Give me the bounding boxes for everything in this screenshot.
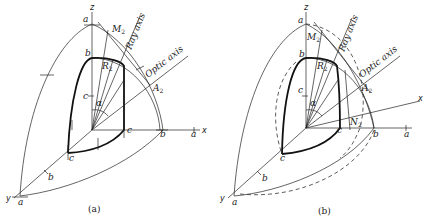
intercept-a-y-a: a	[18, 197, 23, 207]
ray-axis-label-a: Ray axis	[123, 11, 147, 51]
intercept-a-z-b: a	[298, 15, 303, 25]
dashed-circle-xy-b	[240, 130, 374, 195]
alpha-label-b: α	[310, 98, 316, 108]
radial-line-a	[92, 30, 108, 130]
y-axis-a	[14, 130, 92, 198]
outer-sheet-zy-b	[234, 24, 306, 196]
x-axis-label-b: x	[417, 94, 423, 103]
intercept-b-z-b: b	[299, 49, 305, 59]
intercept-a-y-b: a	[232, 197, 237, 207]
ray-axis-label-b: Ray axis	[336, 13, 360, 53]
intercept-c-x-b: c	[337, 125, 342, 135]
intercept-b-x-b: b	[373, 129, 379, 139]
inner-sheet-xy-b	[282, 128, 340, 154]
intercept-c-x-a: c	[127, 125, 132, 135]
panel-caption-b: (b)	[318, 206, 331, 216]
ray-surface-figure: z x y a b c c b a c b a M2 R2 A2 Ray axi…	[0, 0, 429, 221]
intercept-b-y-b: b	[262, 173, 268, 183]
intercept-b-y-a: b	[48, 172, 54, 182]
y-axis-label-a: y	[5, 194, 11, 203]
z-axis-label-a: z	[89, 3, 95, 12]
inner-sheet-zy-b	[282, 58, 306, 154]
point-m2-label-b: M2	[306, 32, 320, 43]
point-a2-label-a: A2	[152, 83, 164, 94]
intercept-c-z-a: c	[83, 91, 88, 101]
outer-sheet-xy-a	[20, 130, 163, 196]
intercept-c-y-a: c	[69, 153, 74, 163]
point-r2-label-a: R2	[101, 61, 113, 72]
outer-sheet-zy-a	[20, 24, 92, 196]
y-axis-label-b: y	[219, 194, 225, 203]
outer-sheet-xy-b	[234, 128, 374, 196]
intercept-a-x-b: a	[404, 129, 409, 139]
intercept-c-y-b: c	[280, 153, 285, 163]
panel-b: z x y a b c c b a c b a M2 R2 A2 N2 Ray …	[219, 3, 423, 216]
intercept-c-z-b: c	[298, 85, 303, 95]
intercept-b-x-a: b	[160, 129, 166, 139]
tick-b-y-b	[257, 171, 261, 175]
intercept-b-z-a: b	[85, 48, 91, 58]
intercept-a-x-a: a	[191, 129, 196, 139]
x-axis-label-a: x	[201, 126, 207, 135]
inner-sheet-zy-a	[68, 58, 92, 153]
z-axis-label-b: z	[303, 3, 309, 12]
inner-sheet-xy-a	[68, 130, 124, 153]
point-a2-label-b: A2	[361, 83, 373, 94]
panel-a: z x y a b c c b a c b a M2 R2 A2 Ray axi…	[5, 3, 207, 214]
point-n2-label-b: N2	[349, 117, 362, 128]
alpha-label-a: α	[96, 98, 102, 108]
intercept-a-z-a: a	[83, 14, 88, 24]
point-m2-label-a: M2	[111, 24, 125, 35]
panel-caption-a: (a)	[88, 204, 100, 214]
y-axis-b	[228, 128, 306, 198]
